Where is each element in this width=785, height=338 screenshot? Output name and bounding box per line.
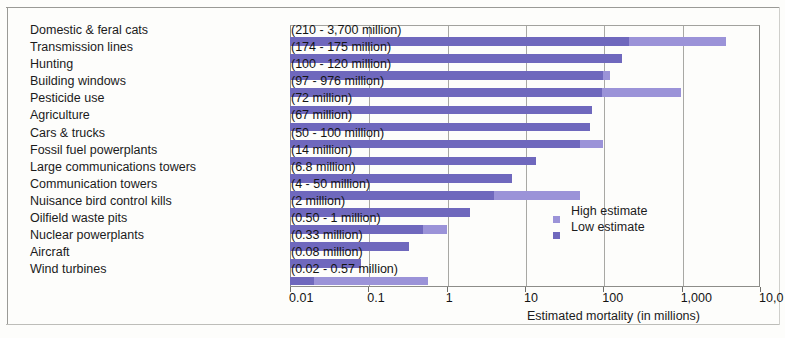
- value-annotation: (0.08 million): [291, 244, 471, 261]
- page-rule-left: [7, 7, 8, 325]
- page-rule-top: [6, 7, 779, 8]
- value-annotation: (67 million): [291, 107, 471, 124]
- legend-item-high: High estimate: [549, 203, 647, 219]
- value-annotation-list: (210 - 3,700 million)(174 - 175 million)…: [291, 22, 471, 278]
- category-label: Cars & trucks: [30, 125, 285, 142]
- category-label: Oilfield waste pits: [30, 210, 285, 227]
- legend-swatch-low-icon: [553, 232, 560, 239]
- x-axis-tick-label: 0.1: [367, 291, 384, 305]
- value-annotation: (100 - 120 million): [291, 56, 471, 73]
- value-annotation: (50 - 100 million): [291, 125, 471, 142]
- category-label: Domestic & feral cats: [30, 22, 285, 39]
- category-label: Agriculture: [30, 107, 285, 124]
- category-label: Hunting: [30, 56, 285, 73]
- category-label: Aircraft: [30, 244, 285, 261]
- category-label: Pesticide use: [30, 90, 285, 107]
- legend-item-low: Low estimate: [549, 219, 647, 235]
- value-annotation: (6.8 million): [291, 159, 471, 176]
- x-axis-tick-label: 100: [602, 291, 623, 305]
- legend-label-low: Low estimate: [571, 220, 645, 234]
- value-annotation: (174 - 175 million): [291, 39, 471, 56]
- x-axis-tick-label: 10: [524, 291, 538, 305]
- category-label: Communication towers: [30, 176, 285, 193]
- legend: High estimate Low estimate: [549, 203, 647, 235]
- chart-figure: Domestic & feral catsTransmission linesH…: [0, 0, 785, 338]
- category-label: Large communications towers: [30, 159, 285, 176]
- value-annotation: (72 million): [291, 90, 471, 107]
- value-annotation: (0.33 million): [291, 227, 471, 244]
- value-annotation: (14 million): [291, 142, 471, 159]
- category-label: Wind turbines: [30, 261, 285, 278]
- category-label: Nuclear powerplants: [30, 227, 285, 244]
- gridline: [683, 26, 684, 286]
- category-label: Fossil fuel powerplants: [30, 142, 285, 159]
- page-rule-bottom: [6, 324, 779, 325]
- value-annotation: (210 - 3,700 million): [291, 22, 471, 39]
- x-axis-title: Estimated mortality (in millions): [527, 309, 700, 323]
- category-label: Nuisance bird control kills: [30, 193, 285, 210]
- category-label: Transmission lines: [30, 39, 285, 56]
- legend-label-high: High estimate: [571, 204, 647, 218]
- x-axis-tick-label: 1: [446, 291, 453, 305]
- gridline: [604, 26, 605, 286]
- x-axis-tick-label: 0.01: [289, 291, 313, 305]
- gridline: [526, 26, 527, 286]
- value-annotation: (0.50 - 1 million): [291, 210, 471, 227]
- x-axis-tick-label: 10,0: [759, 291, 783, 305]
- value-annotation: (0.02 - 0.57 million): [291, 261, 471, 278]
- category-label-list: Domestic & feral catsTransmission linesH…: [30, 22, 285, 278]
- value-annotation: (4 - 50 million): [291, 176, 471, 193]
- x-axis-tick-label: 1,000: [681, 291, 712, 305]
- category-label: Building windows: [30, 73, 285, 90]
- value-annotation: (97 - 976 million): [291, 73, 471, 90]
- page-rule-right: [779, 7, 780, 325]
- value-annotation: (2 million): [291, 193, 471, 210]
